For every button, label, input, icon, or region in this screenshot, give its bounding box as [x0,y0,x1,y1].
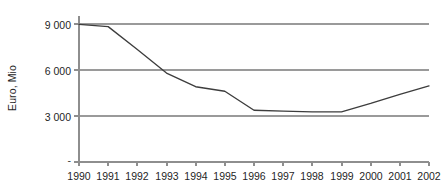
y-tick-label-9000: 9 000 [15,19,71,31]
data-series-line [79,24,429,111]
axis-group [74,16,429,166]
y-axis-tickmarks [74,24,79,116]
y-tick-label-3000: 3 000 [15,111,71,123]
y-tick-label-6000: 6 000 [15,65,71,77]
y-tick-label-zero: - [15,154,71,166]
x-tick-label-1998: 1998 [295,170,329,182]
x-tick-label-1992: 1992 [120,170,154,182]
line-chart-figure: Euro, Mio 9 000 6 000 3 000 - 1990 1991 … [0,0,444,192]
x-axis-tickmarks [79,162,429,166]
x-tick-label-2002: 2002 [412,170,444,182]
